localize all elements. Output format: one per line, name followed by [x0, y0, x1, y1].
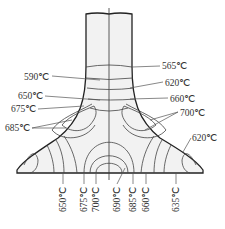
label-bottom-690: 690℃ [112, 187, 122, 212]
label-660: 660℃ [170, 94, 195, 104]
label-590: 590℃ [24, 72, 49, 82]
label-685: 685℃ [5, 123, 30, 133]
label-675: 675℃ [11, 104, 36, 114]
isotherm-diagram: 590℃ 650℃ 675℃ 685℃ 565℃ 620℃ 660℃ 700℃ … [0, 0, 225, 229]
label-620: 620℃ [165, 78, 190, 88]
label-565: 565℃ [162, 61, 187, 71]
label-bottom-685: 685℃ [128, 187, 138, 212]
label-620-corner: 620℃ [192, 133, 217, 143]
label-bottom-660: 660℃ [141, 187, 151, 212]
label-bottom-675: 675℃ [79, 187, 89, 212]
label-700: 700℃ [180, 108, 205, 118]
label-bottom-635: 635℃ [171, 187, 181, 212]
label-650: 650℃ [18, 91, 43, 101]
body-outline [17, 13, 203, 173]
label-bottom-650: 650℃ [58, 187, 68, 212]
label-bottom-700: 700℃ [91, 187, 101, 212]
